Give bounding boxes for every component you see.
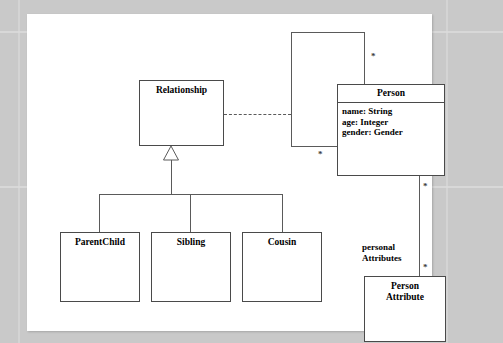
attribute-gender: gender: Gender — [342, 127, 444, 138]
background-seam-vertical-right — [446, 0, 448, 343]
class-box-relationship[interactable]: Relationship — [139, 80, 224, 146]
class-name-relationship: Relationship — [140, 81, 223, 100]
class-box-cousin[interactable]: Cousin — [242, 232, 322, 302]
person-self-assoc-left-segment — [291, 32, 292, 146]
class-name-personattribute: Person Attribute — [365, 277, 445, 307]
person-self-assoc-right-segment — [364, 32, 365, 84]
edge-label-personal-attributes: personal Attributes — [362, 242, 420, 263]
attribute-name: name: String — [342, 106, 444, 117]
class-name-sibling: Sibling — [152, 233, 230, 252]
multiplicity-person-self-top: * — [371, 52, 376, 61]
dependency-dashed-line — [224, 114, 291, 115]
class-attributes-person: name: String age: Integer gender: Gender — [338, 103, 444, 138]
multiplicity-person-self-left: * — [318, 150, 323, 159]
uml-class-diagram-canvas: * * * * personal Attributes Relationship… — [27, 14, 432, 331]
generalization-drop-sibling — [190, 194, 191, 232]
class-name-cousin: Cousin — [243, 233, 321, 252]
multiplicity-person-attr-upper: * — [423, 182, 428, 191]
background-seam-vertical-left — [18, 0, 20, 343]
generalization-stem — [171, 160, 172, 194]
class-box-person[interactable]: Person name: String age: Integer gender:… — [337, 84, 445, 176]
multiplicity-person-attr-lower: * — [423, 263, 428, 272]
person-self-assoc-top-segment — [291, 32, 365, 33]
class-box-personattribute[interactable]: Person Attribute — [364, 276, 446, 342]
class-box-sibling[interactable]: Sibling — [151, 232, 231, 302]
class-box-parentchild[interactable]: ParentChild — [60, 232, 140, 302]
generalization-drop-parentchild — [99, 194, 100, 232]
diagram-page: * * * * personal Attributes Relationship… — [27, 14, 432, 331]
person-self-assoc-bottom-segment — [291, 146, 338, 147]
attribute-age: age: Integer — [342, 117, 444, 128]
generalization-branch-bar — [99, 194, 283, 195]
generalization-drop-cousin — [282, 194, 283, 232]
class-name-person: Person — [338, 85, 444, 103]
class-name-parentchild: ParentChild — [61, 233, 139, 252]
